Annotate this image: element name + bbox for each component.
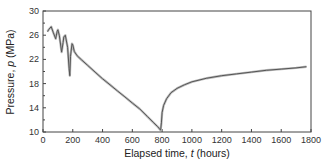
pressure-curve: [48, 27, 307, 131]
y-tick-label: 22: [29, 54, 39, 64]
x-axis-ticks: 020040060080010001200140016001800: [40, 129, 321, 145]
x-tick-label: 1400: [241, 135, 261, 145]
x-tick-label: 400: [95, 135, 110, 145]
x-tick-label: 800: [155, 135, 170, 145]
x-tick-label: 200: [65, 135, 80, 145]
plot-frame: [43, 11, 311, 132]
x-tick-label: 1000: [182, 135, 202, 145]
x-axis-label: Elapsed time, t (hours): [124, 147, 230, 159]
x-tick-label: 600: [125, 135, 140, 145]
y-axis-label-group: Pressure, p (MPa): [4, 29, 16, 114]
pressure-curve-shadow: [48, 27, 307, 131]
y-tick-label: 26: [29, 30, 39, 40]
y-tick-label: 10: [29, 127, 39, 137]
y-axis-label: Pressure, p (MPa): [4, 29, 16, 114]
pressure-time-chart: Pressure, p (MPa) 101418222630 020040060…: [0, 0, 326, 165]
y-tick-label: 14: [29, 103, 39, 113]
x-tick-label: 1200: [212, 135, 232, 145]
y-tick-label: 18: [29, 79, 39, 89]
y-tick-label: 30: [29, 6, 39, 16]
x-tick-label: 0: [40, 135, 45, 145]
x-tick-label: 1600: [271, 135, 291, 145]
x-tick-label: 1800: [301, 135, 321, 145]
